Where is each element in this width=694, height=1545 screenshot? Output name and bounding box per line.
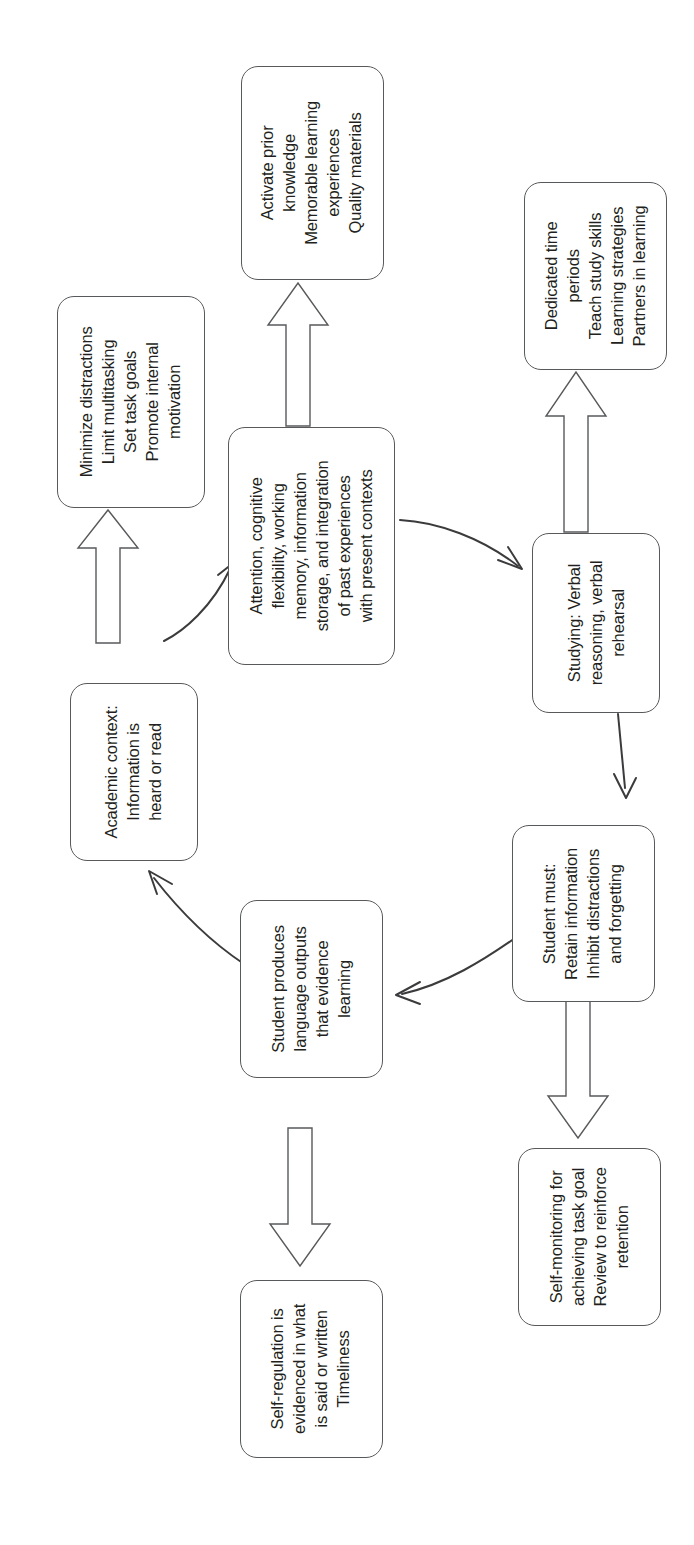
node-self-regulation-evidenced[interactable]: Self-regulation is evidenced in what is …: [240, 1280, 383, 1458]
node-line: achieving task goal: [568, 1167, 590, 1306]
node-line: evidenced in what: [290, 1304, 312, 1434]
node-line: Self-monitoring for: [546, 1167, 568, 1306]
node-line: Minimize distractions: [76, 326, 98, 477]
node-line: Student must:: [540, 847, 562, 979]
node-minimize-distractions[interactable]: Minimize distractions Limit multitasking…: [57, 296, 205, 508]
node-student-produces-language-outputs[interactable]: Student produces language outputs that e…: [240, 900, 383, 1078]
node-line: knowledge: [280, 101, 302, 245]
node-line: language outputs: [290, 925, 312, 1053]
node-line: Student produces: [268, 925, 290, 1053]
connector-student-produces-to-academic-context: [140, 858, 250, 968]
node-activate-prior-knowledge-text: Activate prior knowledge Memorable learn…: [258, 101, 368, 245]
node-line: Review to reinforce: [589, 1167, 611, 1306]
connector-student-produces-to-self-regulation: [264, 1128, 336, 1268]
node-line: Dedicated time: [541, 205, 563, 346]
node-line: rehearsal: [607, 561, 629, 686]
node-self-monitoring[interactable]: Self-monitoring for achieving task goal …: [518, 1148, 661, 1326]
node-line: Timeliness: [333, 1304, 355, 1434]
connector-student-must-to-student-produces: [392, 930, 522, 1002]
node-attention-cognitive-flexibility[interactable]: Attention, cognitive flexibility, workin…: [228, 427, 395, 665]
node-line: Studying: Verbal: [563, 561, 585, 686]
node-line: Retain information: [562, 847, 584, 979]
node-line: retention: [611, 1167, 633, 1306]
node-line: storage, and integration: [312, 461, 334, 632]
connector-attention-to-activate-prior-knowledge: [262, 281, 334, 426]
node-line: motivation: [164, 326, 186, 477]
node-activate-prior-knowledge[interactable]: Activate prior knowledge Memorable learn…: [241, 66, 384, 280]
node-student-must-retain[interactable]: Student must: Retain information Inhibit…: [512, 825, 655, 1002]
connector-academic-context-to-minimize-distractions: [72, 508, 144, 643]
node-line: Inhibit distractions: [583, 847, 605, 979]
node-student-produces-language-outputs-text: Student produces language outputs that e…: [268, 925, 356, 1053]
node-line: memory, information: [290, 461, 312, 632]
node-line: that evidence: [312, 925, 334, 1053]
node-self-monitoring-text: Self-monitoring for achieving task goal …: [546, 1167, 634, 1306]
node-line: and forgetting: [605, 847, 627, 979]
node-line: periods: [563, 205, 585, 346]
node-line: Partners in learning: [628, 205, 650, 346]
connector-studying-to-dedicated-time-periods: [540, 370, 612, 532]
node-studying-verbal-reasoning-text: Studying: Verbal reasoning, verbal rehea…: [563, 561, 629, 686]
flowchart-canvas: Activate prior knowledge Memorable learn…: [0, 0, 694, 1545]
node-line: Learning strategies: [606, 205, 628, 346]
connector-attention-to-studying: [398, 516, 528, 578]
node-line: of past experiences: [333, 461, 355, 632]
node-student-must-retain-text: Student must: Retain information Inhibit…: [540, 847, 628, 979]
connector-studying-to-student-must: [600, 712, 644, 802]
node-line: is said or written: [311, 1304, 333, 1434]
node-minimize-distractions-text: Minimize distractions Limit multitasking…: [76, 326, 186, 477]
node-studying-verbal-reasoning[interactable]: Studying: Verbal reasoning, verbal rehea…: [532, 533, 660, 713]
node-line: Information is: [123, 705, 145, 838]
node-academic-context-text: Academic context: Information is heard o…: [101, 705, 167, 838]
node-line: Promote internal: [142, 326, 164, 477]
node-line: with present contexts: [355, 461, 377, 632]
connector-student-must-to-self-monitoring: [542, 1000, 614, 1140]
node-line: Limit multitasking: [98, 326, 120, 477]
node-self-regulation-evidenced-text: Self-regulation is evidenced in what is …: [268, 1304, 356, 1434]
node-line: experiences: [323, 101, 345, 245]
node-line: Attention, cognitive: [246, 461, 268, 632]
node-line: Self-regulation is: [268, 1304, 290, 1434]
node-line: Teach study skills: [585, 205, 607, 346]
node-dedicated-time-periods-text: Dedicated time periods Teach study skill…: [541, 205, 651, 346]
node-line: Set task goals: [120, 326, 142, 477]
node-attention-cognitive-flexibility-text: Attention, cognitive flexibility, workin…: [246, 461, 378, 632]
node-line: Quality materials: [345, 101, 367, 245]
node-line: flexibility, working: [268, 461, 290, 632]
node-line: learning: [333, 925, 355, 1053]
node-line: heard or read: [145, 705, 167, 838]
node-line: Activate prior: [258, 101, 280, 245]
node-line: Memorable learning: [302, 101, 324, 245]
node-line: reasoning, verbal: [585, 561, 607, 686]
node-academic-context[interactable]: Academic context: Information is heard o…: [70, 683, 198, 861]
node-line: Academic context:: [101, 705, 123, 838]
node-dedicated-time-periods[interactable]: Dedicated time periods Teach study skill…: [524, 182, 667, 370]
